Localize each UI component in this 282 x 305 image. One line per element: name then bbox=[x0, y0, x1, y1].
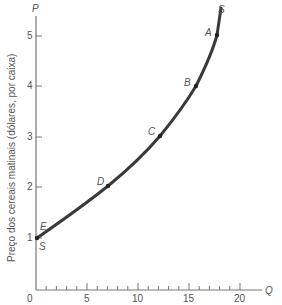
label-s-bottom: S bbox=[39, 241, 46, 252]
point-b bbox=[194, 84, 198, 88]
x-tick-20: 20 bbox=[234, 293, 246, 304]
x-tick-0: 0 bbox=[27, 293, 33, 304]
point-c bbox=[158, 134, 162, 138]
point-d bbox=[106, 184, 110, 188]
label-b: B bbox=[184, 77, 191, 88]
x-tick-5: 5 bbox=[84, 293, 90, 304]
supply-curve-chart: P Q 1 2 3 4 5 0 5 10 15 bbox=[0, 0, 282, 305]
y-tick-1: 1 bbox=[27, 232, 33, 243]
p-axis-label: P bbox=[32, 3, 39, 14]
y-tick-3: 3 bbox=[27, 131, 33, 142]
x-ticks bbox=[46, 283, 240, 290]
point-e bbox=[35, 236, 39, 240]
label-c: C bbox=[148, 126, 156, 137]
y-tick-4: 4 bbox=[27, 80, 33, 91]
supply-curve bbox=[37, 8, 221, 238]
x-tick-10: 10 bbox=[132, 293, 144, 304]
y-tick-5: 5 bbox=[27, 30, 33, 41]
label-e: E bbox=[40, 221, 47, 232]
q-axis-label: Q bbox=[265, 285, 273, 296]
point-a bbox=[215, 33, 219, 37]
data-points bbox=[35, 33, 219, 240]
y-ticks: 1 2 3 4 5 bbox=[27, 30, 42, 243]
label-s-top: S bbox=[218, 4, 225, 15]
x-tick-15: 15 bbox=[183, 293, 195, 304]
y-axis-title: Preço dos cereais matinais (dólares, por… bbox=[6, 54, 17, 262]
label-d: D bbox=[97, 176, 104, 187]
y-tick-2: 2 bbox=[27, 181, 33, 192]
label-a: A bbox=[204, 27, 212, 38]
